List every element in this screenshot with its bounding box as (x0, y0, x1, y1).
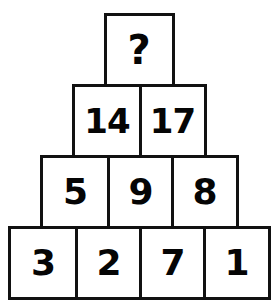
pyramid-row-bottom: 3271 (8, 226, 271, 300)
pyramid-cell: 5 (43, 158, 108, 226)
pyramid-cell-value: 3 (31, 245, 55, 281)
pyramid-cell: 9 (107, 158, 172, 226)
pyramid-row-2: 1417 (72, 84, 207, 158)
pyramid-row-3: 598 (40, 155, 239, 229)
question-mark-icon: ? (127, 30, 150, 70)
pyramid-cell-value: 17 (150, 104, 195, 138)
pyramid-cell: 7 (139, 229, 204, 297)
pyramid-cell: 1 (203, 229, 268, 297)
pyramid-cell-value: 5 (63, 174, 87, 210)
pyramid-cell-unknown[interactable]: ? (107, 16, 172, 84)
pyramid-row-top: ? (104, 13, 175, 87)
pyramid-cell: 14 (75, 87, 140, 155)
pyramid-cell-value: 14 (84, 104, 129, 138)
pyramid-cell-value: 9 (128, 174, 152, 210)
pyramid-cell-value: 8 (192, 174, 216, 210)
pyramid-cell: 8 (171, 158, 236, 226)
pyramid-cell: 3 (11, 229, 76, 297)
pyramid-cell: 2 (75, 229, 140, 297)
pyramid-cell: 17 (139, 87, 204, 155)
pyramid-cell-value: 2 (96, 245, 120, 281)
pyramid-cell-value: 7 (160, 245, 184, 281)
pyramid-cell-value: 1 (224, 245, 248, 281)
